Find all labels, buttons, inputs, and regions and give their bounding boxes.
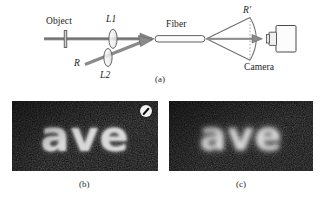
- label-camera: Camera: [244, 63, 274, 73]
- lens-icon: [109, 29, 117, 48]
- panel-c-word: ave: [169, 113, 313, 159]
- optical-axis-arrow-icon: [207, 35, 263, 43]
- panel-a-schematic: Object L1 L2 R Fiber R′ Camera (a): [0, 0, 327, 90]
- caption-panel-c: (c): [236, 179, 246, 189]
- camera-icon: [267, 26, 297, 53]
- label-reference-beam: R: [74, 59, 80, 69]
- no-entry-badge-icon: [140, 105, 152, 117]
- object-plane-icon: [64, 31, 67, 48]
- panel-c-image: ave: [169, 101, 313, 171]
- caption-panel-b: (b): [79, 179, 90, 189]
- figure-container: Object L1 L2 R Fiber R′ Camera (a) ave: [0, 0, 327, 200]
- panel-b-image: ave: [12, 101, 158, 171]
- caption-panel-a: (a): [155, 74, 165, 84]
- label-reference-prime: R′: [243, 6, 251, 16]
- panel-b-word: ave: [12, 111, 158, 161]
- optical-fiber-icon: [155, 36, 205, 42]
- label-object: Object: [46, 17, 72, 27]
- label-lens-l2: L2: [100, 71, 110, 81]
- label-lens-l1: L1: [106, 15, 116, 25]
- label-fiber: Fiber: [166, 20, 187, 30]
- badge-slash: [142, 107, 150, 115]
- lens-icon: [104, 49, 112, 67]
